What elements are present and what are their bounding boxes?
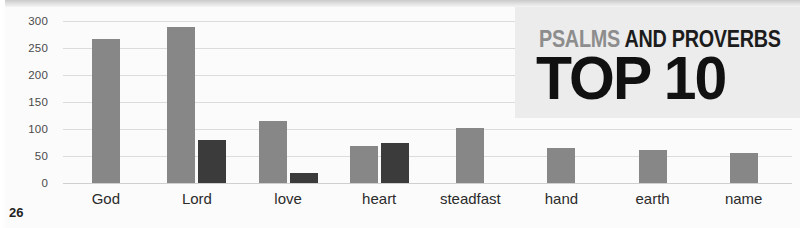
- scan-edge-left: [0, 0, 5, 228]
- bar-Lord-psalms: [167, 27, 195, 183]
- bar-love-psalms: [259, 121, 287, 183]
- x-axis-label-heart: heart: [362, 190, 396, 207]
- x-axis-label-Lord: Lord: [182, 190, 212, 207]
- bar-cluster: [259, 21, 318, 183]
- bar-God-psalms: [92, 39, 120, 183]
- x-axis-label-name: name: [725, 190, 763, 207]
- y-axis-tick-label: 100: [2, 123, 48, 135]
- bar-earth-psalms: [639, 150, 667, 183]
- x-axis-label-earth: earth: [635, 190, 669, 207]
- title-main: TOP 10: [536, 47, 725, 109]
- x-axis-label-God: God: [92, 190, 120, 207]
- bar-cluster: [456, 21, 484, 183]
- x-axis-label-love: love: [274, 190, 302, 207]
- y-axis-tick-label: 200: [2, 69, 48, 81]
- scan-edge-top: [0, 0, 800, 7]
- x-axis-label-steadfast: steadfast: [440, 190, 501, 207]
- y-axis-tick-label: 150: [2, 96, 48, 108]
- chart-page: 050100150200250300 GodLordloveheartstead…: [0, 0, 800, 228]
- bar-cluster: [92, 21, 120, 183]
- page-number: 26: [9, 205, 23, 220]
- bar-love-proverbs: [290, 173, 318, 183]
- bar-Lord-proverbs: [198, 140, 226, 183]
- title-panel: PSALMS AND PROVERBS TOP 10: [515, 7, 800, 118]
- y-axis-tick-label: 250: [2, 42, 48, 54]
- bar-heart-proverbs: [381, 143, 409, 183]
- bar-heart-psalms: [350, 146, 378, 183]
- y-axis-tick-label: 300: [2, 15, 48, 27]
- y-axis-tick-label: 0: [2, 177, 48, 189]
- bar-cluster: [167, 21, 226, 183]
- bar-steadfast-psalms: [456, 128, 484, 183]
- gridline-0: [63, 183, 792, 184]
- y-axis-tick-label: 50: [2, 150, 48, 162]
- bar-cluster: [350, 21, 409, 183]
- bar-name-psalms: [730, 153, 758, 183]
- x-axis-label-hand: hand: [545, 190, 578, 207]
- bar-hand-psalms: [547, 148, 575, 183]
